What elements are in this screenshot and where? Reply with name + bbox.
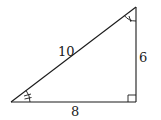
right-angle-marker (128, 95, 136, 102)
hypotenuse-label: 10 (58, 44, 75, 59)
triangle-svg: 10 6 8 (0, 0, 161, 120)
triangle-diagram: 10 6 8 (0, 0, 161, 120)
vertical-side-label: 6 (139, 50, 147, 65)
horizontal-side-label: 8 (71, 104, 79, 119)
angle-marker-top-right (125, 16, 137, 22)
angle-marker-bottom-left (24, 91, 32, 103)
